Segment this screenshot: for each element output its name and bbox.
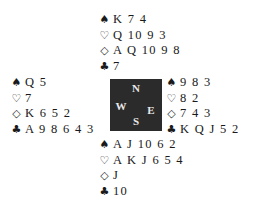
east-hearts-cards: 8 2 xyxy=(180,91,200,107)
compass-north-label: N xyxy=(130,82,142,94)
heart-icon: ♡ xyxy=(10,91,23,107)
club-icon: ♣ xyxy=(98,184,111,200)
south-diamonds-cards: J xyxy=(113,168,119,184)
south-clubs-cards: 10 xyxy=(113,184,128,200)
compass-west-label: W xyxy=(115,100,127,112)
club-icon: ♣ xyxy=(98,59,111,75)
north-spades-cards: K 7 4 xyxy=(113,12,147,28)
west-clubs-cards: A 9 8 6 4 3 xyxy=(25,122,95,138)
spade-icon: ♠ xyxy=(98,137,111,153)
spade-icon: ♠ xyxy=(10,75,23,91)
west-spades-cards: Q 5 xyxy=(25,75,47,91)
south-hearts-cards: A K J 6 5 4 xyxy=(113,153,184,169)
south-spades-cards: A J 10 6 2 xyxy=(113,137,177,153)
heart-icon: ♡ xyxy=(98,28,111,44)
spade-icon: ♠ xyxy=(98,12,111,28)
club-icon: ♣ xyxy=(165,122,178,138)
spade-icon: ♠ xyxy=(165,75,178,91)
heart-icon: ♡ xyxy=(165,91,178,107)
north-clubs-cards: 7 xyxy=(113,59,121,75)
compass-table: N W E S xyxy=(110,79,162,131)
north-hearts-cards: Q 10 9 3 xyxy=(113,28,167,44)
east-clubs-cards: K Q J 5 2 xyxy=(180,122,240,138)
heart-icon: ♡ xyxy=(98,153,111,169)
compass-south-label: S xyxy=(130,115,142,127)
east-spades-cards: 9 8 3 xyxy=(180,75,212,91)
diamond-icon: ◇ xyxy=(98,168,111,184)
east-diamonds-cards: 7 4 3 xyxy=(180,106,212,122)
north-diamonds-cards: A Q 10 9 8 xyxy=(113,43,181,59)
club-icon: ♣ xyxy=(10,122,23,138)
west-hearts-cards: 7 xyxy=(25,91,33,107)
west-diamonds-cards: K 6 5 2 xyxy=(25,106,71,122)
diamond-icon: ◇ xyxy=(10,106,23,122)
compass-east-label: E xyxy=(145,104,157,116)
diamond-icon: ◇ xyxy=(98,43,111,59)
diamond-icon: ◇ xyxy=(165,106,178,122)
